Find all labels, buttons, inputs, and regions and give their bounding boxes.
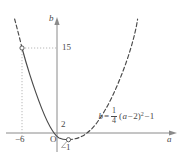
- equation-lhs: b: [99, 111, 104, 121]
- equation-inner-minus: −: [128, 111, 133, 121]
- tick-label-y-minus1: −1: [61, 143, 71, 152]
- parabola-figure: b a O −6 2 −1 15 b = 1 4 ( a − 2 ) 2 − 1: [0, 0, 187, 162]
- x-axis: [6, 130, 177, 135]
- origin-label: O: [50, 135, 57, 144]
- equation-equals: =: [104, 111, 109, 121]
- equation-tail-constant: 1: [150, 111, 155, 121]
- tick-label-x-2: 2: [61, 120, 66, 129]
- equation-variable: a: [123, 111, 128, 121]
- equation-fraction: 1 4: [111, 107, 117, 125]
- tick-label-y-15: 15: [62, 43, 71, 52]
- x-axis-label: a: [167, 135, 172, 144]
- y-axis-label: b: [49, 14, 54, 23]
- fraction-numerator: 1: [111, 107, 117, 116]
- open-point-minus6-15: [20, 46, 24, 50]
- y-axis: [54, 17, 59, 152]
- fraction-denominator: 4: [111, 116, 117, 126]
- graph-canvas: [0, 0, 187, 162]
- equation-exponent: 2: [141, 111, 144, 117]
- equation-tail-minus: −: [144, 111, 149, 121]
- equation-label: b = 1 4 ( a − 2 ) 2 − 1: [98, 107, 154, 125]
- curve-dashed-left: [15, 19, 22, 48]
- tick-label-x-minus6: −6: [15, 135, 25, 144]
